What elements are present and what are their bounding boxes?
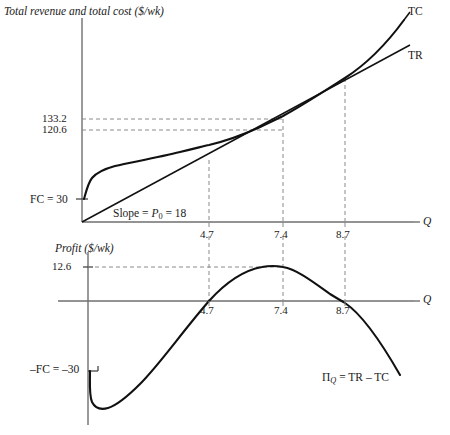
series-label-tc: TC [408, 6, 423, 18]
profit-subscript: Q [330, 376, 336, 385]
top-x-tick-4-7: 4.7 [200, 229, 214, 240]
bottom-y-tick-12-6: 12.6 [52, 261, 71, 272]
figure-canvas: Total revenue and total cost ($/wk) TC T… [0, 0, 450, 435]
profit-suffix: = TR – TC [336, 371, 389, 383]
bottom-x-tick-4-7: 4.7 [200, 305, 214, 316]
bottom-negative-fixed-cost-label: –FC = –30 [30, 364, 79, 376]
series-tc-curve [84, 20, 404, 199]
series-profit-curve [90, 266, 400, 409]
bottom-panel-dashed-guides [88, 236, 345, 301]
bottom-panel-axis-title: Profit ($/wk) [55, 243, 114, 255]
top-x-tickmarks [209, 222, 345, 227]
top-x-tick-8-7: 8.7 [336, 229, 350, 240]
slope-suffix: = 18 [163, 207, 187, 219]
slope-subscript: 0 [158, 212, 162, 221]
slope-prefix: Slope = [113, 207, 151, 219]
top-x-tick-7-4: 7.4 [274, 229, 288, 240]
top-panel-axis-title: Total revenue and total cost ($/wk) [4, 6, 164, 18]
top-fixed-cost-label: FC = 30 [30, 194, 68, 206]
profit-equation-label: ΠQ = TR – TC [322, 372, 389, 384]
bottom-x-axis-label: Q [423, 294, 431, 306]
top-panel-axes [76, 18, 414, 222]
top-y-tick-120-6: 120.6 [42, 124, 67, 135]
bottom-x-tick-7-4: 7.4 [274, 305, 288, 316]
series-label-tr: TR [408, 50, 423, 62]
top-x-axis-label: Q [423, 216, 431, 228]
bottom-x-tick-8-7: 8.7 [336, 305, 350, 316]
slope-annotation: Slope = P0 = 18 [113, 208, 186, 220]
